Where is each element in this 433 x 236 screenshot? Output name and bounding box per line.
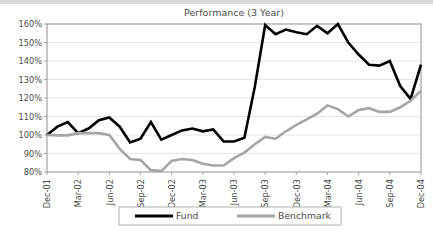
y-tick-label: 130%	[19, 75, 43, 85]
x-axis-labels: Dec-01Mar-02Jun-02Sep-02Dec-02Mar-03Jun-…	[42, 172, 426, 208]
x-tick-label: Mar-02	[73, 179, 83, 207]
chart-canvas: Performance (3 Year)80%90%100%110%120%13…	[0, 0, 433, 236]
x-tick-label: Dec-01	[42, 179, 52, 208]
y-tick-label: 100%	[19, 130, 43, 140]
series-line-benchmark	[47, 91, 421, 171]
x-tick-label: Sep-03	[260, 179, 270, 208]
y-tick-label: 80%	[24, 167, 42, 177]
x-tick-label: Dec-03	[292, 179, 302, 208]
chart-title: Performance (3 Year)	[184, 7, 284, 18]
x-tick-label: Dec-02	[167, 179, 177, 208]
x-tick-label: Mar-03	[198, 179, 208, 207]
x-tick-label: Jun-04	[354, 179, 364, 206]
y-axis-labels: 80%90%100%110%120%130%140%150%160%	[19, 19, 43, 177]
x-tick-label: Mar-04	[323, 179, 333, 207]
y-tick-label: 90%	[24, 149, 42, 159]
x-tick-label: Sep-04	[385, 179, 395, 208]
legend: FundBenchmark	[119, 207, 341, 225]
x-tick-label: Sep-02	[136, 179, 146, 208]
y-tick-label: 110%	[19, 112, 43, 122]
x-tick-label: Jun-03	[229, 179, 239, 206]
x-tick-label: Dec-04	[416, 179, 426, 208]
legend-label-benchmark: Benchmark	[278, 210, 332, 221]
series-line-fund	[47, 24, 421, 142]
y-tick-label: 160%	[19, 19, 43, 29]
performance-chart: Performance (3 Year)80%90%100%110%120%13…	[0, 0, 433, 236]
y-tick-label: 120%	[19, 93, 43, 103]
data-series-group	[47, 24, 421, 171]
y-tick-label: 150%	[19, 38, 43, 48]
legend-label-fund: Fund	[176, 210, 199, 221]
x-tick-label: Jun-02	[105, 179, 115, 206]
y-gridlines	[44, 24, 421, 172]
y-tick-label: 140%	[19, 56, 43, 66]
